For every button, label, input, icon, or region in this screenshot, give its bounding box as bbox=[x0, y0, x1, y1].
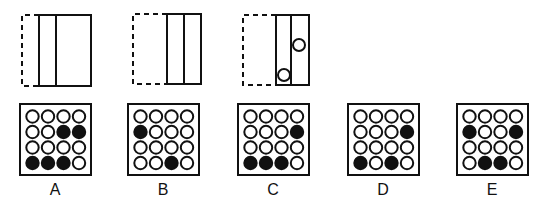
empty-dot-icon bbox=[181, 157, 193, 169]
hole-circle-icon bbox=[278, 69, 290, 81]
filled-dot-icon bbox=[463, 126, 475, 138]
empty-dot-icon bbox=[494, 110, 506, 122]
filled-dot-icon bbox=[385, 157, 397, 169]
empty-dot-icon bbox=[244, 110, 256, 122]
empty-dot-icon bbox=[73, 157, 85, 169]
filled-dot-icon bbox=[354, 157, 366, 169]
empty-dot-icon bbox=[291, 110, 303, 122]
empty-dot-icon bbox=[260, 110, 272, 122]
empty-dot-icon bbox=[479, 141, 491, 153]
filled-dot-icon bbox=[291, 126, 303, 138]
option-label-b: B bbox=[143, 181, 183, 199]
empty-dot-icon bbox=[510, 141, 522, 153]
empty-dot-icon bbox=[463, 110, 475, 122]
option-label-e: E bbox=[472, 181, 512, 199]
question-figure-3 bbox=[243, 15, 309, 85]
option-d[interactable] bbox=[348, 104, 419, 175]
empty-dot-icon bbox=[260, 126, 272, 138]
option-label-a: A bbox=[35, 181, 75, 199]
option-e[interactable] bbox=[457, 104, 528, 175]
dashed-outline bbox=[133, 14, 167, 84]
empty-dot-icon bbox=[165, 141, 177, 153]
empty-dot-icon bbox=[165, 126, 177, 138]
empty-dot-icon bbox=[385, 126, 397, 138]
empty-dot-icon bbox=[479, 110, 491, 122]
empty-dot-icon bbox=[150, 110, 162, 122]
option-c[interactable] bbox=[238, 104, 309, 175]
filled-dot-icon bbox=[244, 157, 256, 169]
empty-dot-icon bbox=[401, 157, 413, 169]
dashed-outline bbox=[22, 15, 39, 86]
empty-dot-icon bbox=[370, 110, 382, 122]
empty-dot-icon bbox=[73, 141, 85, 153]
empty-dot-icon bbox=[134, 141, 146, 153]
empty-dot-icon bbox=[165, 110, 177, 122]
filled-dot-icon bbox=[57, 157, 69, 169]
hole-circle-icon bbox=[293, 39, 305, 51]
empty-dot-icon bbox=[181, 141, 193, 153]
filled-dot-icon bbox=[479, 157, 491, 169]
empty-dot-icon bbox=[150, 141, 162, 153]
empty-dot-icon bbox=[244, 141, 256, 153]
option-label-c: C bbox=[253, 181, 293, 199]
empty-dot-icon bbox=[401, 110, 413, 122]
empty-dot-icon bbox=[73, 110, 85, 122]
filled-dot-icon bbox=[260, 157, 272, 169]
empty-dot-icon bbox=[354, 141, 366, 153]
filled-dot-icon bbox=[42, 157, 54, 169]
empty-dot-icon bbox=[26, 126, 38, 138]
filled-dot-icon bbox=[401, 126, 413, 138]
empty-dot-icon bbox=[463, 157, 475, 169]
empty-dot-icon bbox=[494, 141, 506, 153]
empty-dot-icon bbox=[463, 141, 475, 153]
empty-dot-icon bbox=[260, 141, 272, 153]
empty-dot-icon bbox=[26, 110, 38, 122]
empty-dot-icon bbox=[134, 157, 146, 169]
empty-dot-icon bbox=[479, 126, 491, 138]
empty-dot-icon bbox=[150, 157, 162, 169]
empty-dot-icon bbox=[275, 126, 287, 138]
empty-dot-icon bbox=[291, 157, 303, 169]
option-label-d: D bbox=[363, 181, 403, 199]
empty-dot-icon bbox=[275, 110, 287, 122]
empty-dot-icon bbox=[134, 110, 146, 122]
empty-dot-icon bbox=[275, 141, 287, 153]
question-figure-1 bbox=[22, 15, 91, 86]
filled-dot-icon bbox=[26, 157, 38, 169]
dashed-outline bbox=[243, 15, 276, 85]
empty-dot-icon bbox=[510, 110, 522, 122]
empty-dot-icon bbox=[354, 110, 366, 122]
empty-dot-icon bbox=[26, 141, 38, 153]
filled-dot-icon bbox=[494, 157, 506, 169]
empty-dot-icon bbox=[494, 126, 506, 138]
filled-dot-icon bbox=[510, 126, 522, 138]
filled-dot-icon bbox=[275, 157, 287, 169]
empty-dot-icon bbox=[370, 157, 382, 169]
option-b[interactable] bbox=[128, 104, 199, 175]
empty-dot-icon bbox=[370, 141, 382, 153]
solid-rectangle bbox=[39, 15, 91, 86]
empty-dot-icon bbox=[42, 126, 54, 138]
filled-dot-icon bbox=[73, 126, 85, 138]
empty-dot-icon bbox=[291, 141, 303, 153]
answer-options-row bbox=[20, 104, 528, 175]
empty-dot-icon bbox=[510, 157, 522, 169]
question-figures-row bbox=[22, 14, 309, 86]
empty-dot-icon bbox=[370, 126, 382, 138]
question-figure-2 bbox=[133, 14, 201, 84]
empty-dot-icon bbox=[244, 126, 256, 138]
filled-dot-icon bbox=[57, 126, 69, 138]
empty-dot-icon bbox=[385, 141, 397, 153]
empty-dot-icon bbox=[150, 126, 162, 138]
empty-dot-icon bbox=[181, 126, 193, 138]
filled-dot-icon bbox=[165, 157, 177, 169]
option-a[interactable] bbox=[20, 104, 91, 175]
empty-dot-icon bbox=[57, 110, 69, 122]
filled-dot-icon bbox=[134, 126, 146, 138]
empty-dot-icon bbox=[385, 110, 397, 122]
empty-dot-icon bbox=[401, 141, 413, 153]
empty-dot-icon bbox=[181, 110, 193, 122]
puzzle-canvas bbox=[0, 0, 551, 211]
empty-dot-icon bbox=[57, 141, 69, 153]
empty-dot-icon bbox=[354, 126, 366, 138]
